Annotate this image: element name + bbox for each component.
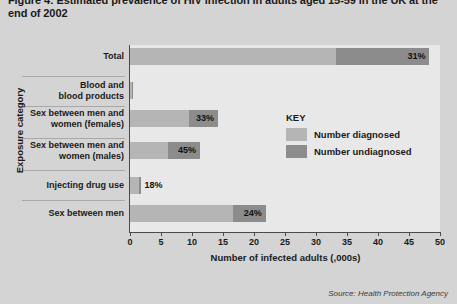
x-tick — [130, 232, 131, 236]
category-label: Total — [18, 51, 124, 62]
bar[interactable] — [130, 177, 141, 194]
x-tick-label: 45 — [399, 237, 419, 247]
x-tick-label: 15 — [213, 237, 233, 247]
category-label: Sex between men — [18, 208, 124, 219]
row-divider — [22, 106, 125, 107]
bar-value-label: 18% — [145, 177, 163, 194]
bar[interactable]: 33% — [130, 110, 218, 127]
category-label: Sex between men andwomen (males) — [18, 140, 124, 161]
legend: KEY Number diagnosed Number undiagnosed — [286, 112, 412, 162]
bar-segment-diagnosed — [130, 177, 139, 194]
bar-segment-undiagnosed: 31% — [336, 48, 429, 65]
legend-label-undiagnosed: Number undiagnosed — [314, 146, 412, 157]
y-axis-title: Exposure category — [14, 76, 25, 186]
category-label: Blood andblood products — [18, 80, 124, 101]
chart-title: Figure 4: Estimated prevalence of HIV in… — [8, 0, 449, 20]
bar-segment-undiagnosed: 33% — [189, 110, 218, 127]
row-divider — [22, 138, 125, 139]
bar-segment-diagnosed — [130, 48, 336, 65]
x-tick — [409, 232, 410, 236]
legend-item-undiagnosed: Number undiagnosed — [286, 145, 412, 158]
legend-title: KEY — [286, 112, 412, 123]
legend-swatch-undiagnosed — [286, 145, 307, 158]
x-tick — [440, 232, 441, 236]
bar-segment-diagnosed — [130, 142, 168, 159]
bar-value-label: 31% — [407, 48, 425, 65]
x-tick-label: 10 — [182, 237, 202, 247]
bar-segment-undiagnosed: 24% — [233, 205, 266, 222]
x-tick — [285, 232, 286, 236]
x-axis-title: Number of infected adults (,000s) — [130, 252, 441, 263]
category-label: Injecting drug use — [18, 180, 124, 191]
x-tick-label: 25 — [275, 237, 295, 247]
x-tick-label: 0 — [120, 237, 140, 247]
source-note: Source: Health Protection Agency — [328, 289, 448, 298]
bar[interactable]: 24% — [130, 205, 266, 222]
x-tick-label: 20 — [244, 237, 264, 247]
x-tick-label: 35 — [337, 237, 357, 247]
row-divider — [22, 200, 125, 201]
bar[interactable] — [130, 82, 132, 99]
category-label: Sex between men andwomen (females) — [18, 108, 124, 129]
bar-value-label: 33% — [196, 110, 214, 127]
row-divider — [22, 170, 125, 171]
legend-swatch-diagnosed — [286, 128, 307, 141]
x-tick — [347, 232, 348, 236]
bar-segment-diagnosed — [130, 110, 189, 127]
x-tick — [161, 232, 162, 236]
bar-segment-undiagnosed: 45% — [168, 142, 200, 159]
x-tick — [223, 232, 224, 236]
bar[interactable]: 45% — [130, 142, 200, 159]
x-tick-label: 50 — [430, 237, 450, 247]
bar[interactable]: 31% — [130, 48, 429, 65]
x-tick — [192, 232, 193, 236]
bar-segment-undiagnosed — [139, 177, 141, 194]
x-tick-label: 40 — [368, 237, 388, 247]
x-tick — [378, 232, 379, 236]
legend-item-diagnosed: Number diagnosed — [286, 128, 412, 141]
bar-segment-undiagnosed — [132, 82, 133, 99]
bar-segment-diagnosed — [130, 205, 233, 222]
bar-value-label: 24% — [244, 205, 262, 222]
x-tick — [254, 232, 255, 236]
bar-value-label: 45% — [178, 142, 196, 159]
row-divider — [22, 76, 125, 77]
legend-label-diagnosed: Number diagnosed — [314, 129, 400, 140]
x-tick-label: 5 — [151, 237, 171, 247]
x-tick-label: 30 — [306, 237, 326, 247]
x-tick — [316, 232, 317, 236]
